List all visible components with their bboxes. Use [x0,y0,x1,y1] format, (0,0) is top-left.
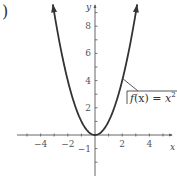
x-tick-label: 2 [119,139,125,149]
y-tick-label: 2 [85,103,91,113]
x-tick-label: 4 [147,139,153,149]
y-axis-ticks: −12468 [78,13,98,163]
y-tick-label: 4 [85,76,91,86]
y-tick-label: 6 [85,48,91,58]
function-label-annotation: f(x) = x2 [122,78,177,105]
function-label: f(x) = x2 [129,91,176,105]
y-tick-label: −1 [78,144,91,154]
curve-arrow-icon [133,4,139,12]
y-tick-label: 8 [85,21,91,31]
curve-arrow-icon [51,4,57,12]
parabola-figure: ) −4−224 −12468 x y f(x) = x2 [0,0,177,178]
x-tick-label: −4 [34,139,48,149]
y-axis-label: y [85,2,92,12]
x-axis-label: x [170,142,175,152]
leader-line [122,78,138,91]
x-tick-label: −2 [61,139,74,149]
part-marker: ) [2,2,8,21]
